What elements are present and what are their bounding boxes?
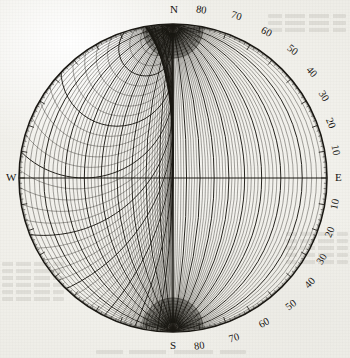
cardinal-label-west: W bbox=[6, 172, 16, 183]
graduation-label: 10 bbox=[329, 198, 341, 210]
cardinal-label-north: N bbox=[170, 4, 178, 15]
graduation-label: 80 bbox=[193, 340, 205, 352]
graduation-label: 80 bbox=[195, 4, 207, 16]
graduation-label: 10 bbox=[329, 144, 341, 156]
wulff-net-figure: N E S W 80 70 60 50 40 30 20 10 10 20 30… bbox=[0, 0, 350, 358]
cardinal-label-east: E bbox=[335, 172, 342, 183]
cardinal-label-south: S bbox=[170, 340, 176, 351]
